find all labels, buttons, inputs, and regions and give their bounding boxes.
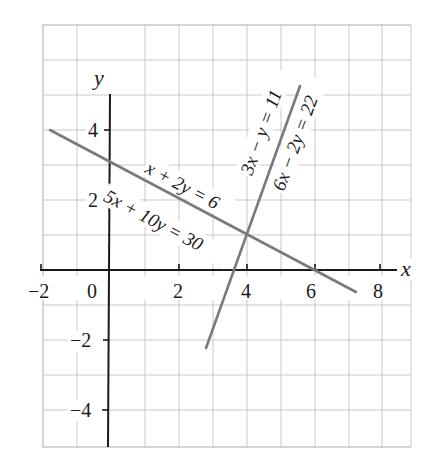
x-tick-label: 6 <box>306 280 316 302</box>
x-axis-label: x <box>400 256 411 281</box>
y-tick-label: 4 <box>88 119 98 141</box>
y-tick-label: −4 <box>70 399 91 421</box>
y-tick-label: 2 <box>88 189 98 211</box>
y-axis-label: y <box>92 65 104 90</box>
x-tick-label: 2 <box>173 280 183 302</box>
x-tick-label: 0 <box>87 280 97 302</box>
x-tick-label: 8 <box>373 280 383 302</box>
y-tick-label: −2 <box>70 329 91 351</box>
x-tick-label: 4 <box>241 280 251 302</box>
y-axis <box>108 94 110 447</box>
x-tick-label: −2 <box>28 280 49 302</box>
linear-system-graph: −2 0 2 4 6 8 4 2 −2 −4 y x x + 2y = 6 5x… <box>0 0 441 472</box>
